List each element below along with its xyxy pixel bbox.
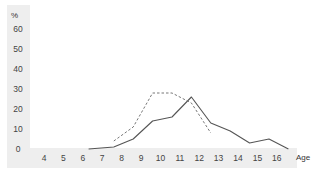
x-tick-label: 10 [156, 153, 166, 163]
x-tick-label: 15 [253, 153, 263, 163]
x-tick-label: 12 [194, 153, 204, 163]
x-tick-label: 16 [272, 153, 282, 163]
plot-area [89, 93, 289, 149]
y-tick-label: 0 [16, 144, 21, 154]
x-tick-label: 7 [100, 153, 105, 163]
y-tick-label: 40 [13, 64, 23, 74]
chart-canvas: 0102030405060 45678910111213141516 % Age [0, 0, 313, 172]
x-axis-title: Age [296, 153, 311, 162]
x-tick-label: 13 [214, 153, 224, 163]
solid-series-line [89, 97, 289, 149]
x-tick-label: 5 [61, 153, 66, 163]
x-tick-label: 4 [42, 153, 47, 163]
x-tick-label: 14 [233, 153, 243, 163]
x-tick-label: 8 [119, 153, 124, 163]
dashed-series-line [114, 93, 211, 141]
line-chart: 0102030405060 45678910111213141516 % Age [0, 0, 313, 172]
y-tick-label: 20 [13, 104, 23, 114]
y-tick-label: 10 [13, 124, 23, 134]
y-tick-label: 60 [13, 24, 23, 34]
x-tick-label: 6 [80, 153, 85, 163]
x-tick-label: 9 [139, 153, 144, 163]
y-tick-label: 30 [13, 84, 23, 94]
y-tick-label: 50 [13, 44, 23, 54]
y-axis-title: % [11, 11, 18, 20]
x-tick-label: 11 [175, 153, 184, 163]
